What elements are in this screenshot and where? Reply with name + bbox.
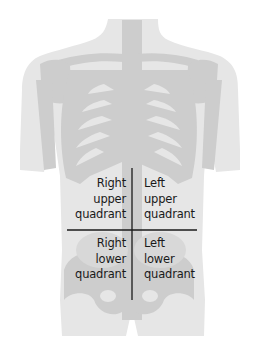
ruq-line-1: Right — [60, 176, 126, 192]
quadrant-label-luq: Left upper quadrant — [144, 176, 214, 223]
luq-line-3: quadrant — [144, 207, 214, 223]
torso-skeleton-figure — [0, 0, 257, 349]
llq-line-2: lower — [144, 252, 214, 268]
quadrant-label-rlq: Right lower quadrant — [60, 236, 126, 283]
pelvis-opening-right — [100, 290, 116, 302]
luq-line-2: upper — [144, 192, 214, 208]
rlq-line-3: quadrant — [60, 267, 126, 283]
ruq-line-3: quadrant — [60, 207, 126, 223]
pelvis-opening-left — [142, 290, 158, 302]
llq-line-3: quadrant — [144, 267, 214, 283]
quadrant-label-ruq: Right upper quadrant — [60, 176, 126, 223]
ruq-line-2: upper — [60, 192, 126, 208]
quadrant-label-llq: Left lower quadrant — [144, 236, 214, 283]
luq-line-1: Left — [144, 176, 214, 192]
rlq-line-1: Right — [60, 236, 126, 252]
llq-line-1: Left — [144, 236, 214, 252]
rlq-line-2: lower — [60, 252, 126, 268]
